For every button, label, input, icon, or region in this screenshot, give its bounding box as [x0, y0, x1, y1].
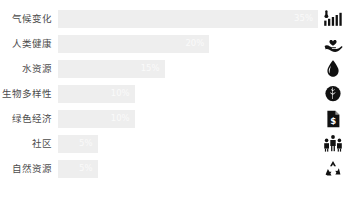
recycle-icon	[318, 156, 348, 181]
bar-track: 35%	[58, 10, 318, 28]
bar[interactable]: 10%	[58, 85, 135, 103]
bar-value-label: 5%	[79, 139, 93, 148]
category-label: 绿色经济	[0, 113, 58, 124]
chart-row: 人类健康 20%	[0, 31, 348, 56]
chart-row: 绿色经济 10% $	[0, 106, 348, 131]
category-label: 水资源	[0, 63, 58, 74]
chart-row: 社区 5%	[0, 131, 348, 156]
bar-track: 20%	[58, 35, 318, 53]
people-group-icon	[318, 131, 348, 156]
chart-row: 自然资源 5%	[0, 156, 348, 181]
bar-track: 5%	[58, 135, 318, 153]
bar[interactable]: 5%	[58, 135, 98, 153]
thermometer-bars-icon	[318, 6, 348, 31]
document-dollar-icon: $	[318, 106, 348, 131]
chart-row: 生物多样性 10%	[0, 81, 348, 106]
bar-value-label: 35%	[294, 14, 313, 23]
bar-value-label: 10%	[111, 89, 130, 98]
chart-row: 气候变化 35%	[0, 6, 348, 31]
horizontal-bar-chart: 气候变化 35% 人类健康 20%	[0, 0, 348, 197]
bar-value-label: 10%	[111, 114, 130, 123]
bar[interactable]: 15%	[58, 60, 165, 78]
hand-heart-icon	[318, 31, 348, 56]
category-label: 社区	[0, 138, 58, 149]
category-label: 生物多样性	[0, 88, 58, 99]
bar-track: 10%	[58, 85, 318, 103]
bar[interactable]: 10%	[58, 110, 135, 128]
bar-track: 10%	[58, 110, 318, 128]
bar[interactable]: 20%	[58, 35, 209, 53]
leaf-circle-icon	[318, 81, 348, 106]
bar-value-label: 20%	[185, 39, 204, 48]
category-label: 人类健康	[0, 38, 58, 49]
bar[interactable]: 35%	[58, 10, 318, 28]
bar[interactable]: 5%	[58, 160, 98, 178]
bar-value-label: 15%	[141, 64, 160, 73]
water-drop-icon	[318, 56, 348, 81]
bar-track: 5%	[58, 160, 318, 178]
bar-track: 15%	[58, 60, 318, 78]
chart-row: 水资源 15%	[0, 56, 348, 81]
category-label: 气候变化	[0, 13, 58, 24]
svg-text:$: $	[330, 115, 336, 125]
bar-value-label: 5%	[79, 164, 93, 173]
category-label: 自然资源	[0, 163, 58, 174]
